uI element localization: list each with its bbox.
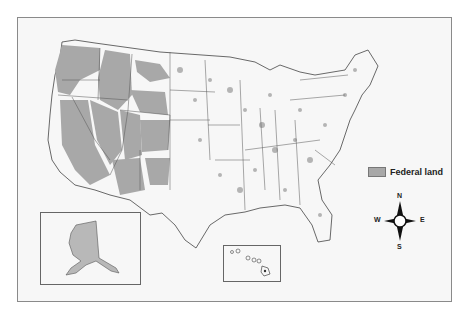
alaska-shape [66, 221, 119, 275]
compass-south: S [397, 243, 402, 250]
hawaii-inset [223, 245, 281, 282]
compass-rose: N S W E [378, 195, 422, 251]
compass-east: E [420, 216, 425, 223]
compass-north: N [397, 192, 402, 199]
legend-label: Federal land [390, 167, 443, 177]
legend: Federal land [368, 167, 443, 177]
federal-land-swatch [368, 167, 386, 177]
alaska-inset [40, 212, 141, 285]
compass-west: W [374, 216, 381, 223]
